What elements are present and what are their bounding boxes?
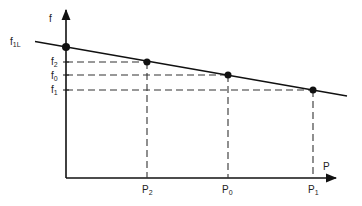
x-axis-label: P — [323, 161, 330, 172]
label-f1L: f1L — [10, 36, 21, 48]
f-vs-p-diagram: f P f1L f2 f0 f1 P2 P0 P1 — [0, 0, 362, 206]
label-p1: P1 — [308, 184, 319, 196]
point-p0 — [225, 72, 232, 79]
label-f1: f1 — [51, 84, 58, 96]
point-f1L — [62, 43, 70, 51]
y-axis-label: f — [49, 13, 52, 24]
characteristic-line — [35, 42, 347, 97]
point-p1 — [310, 87, 317, 94]
label-p0: P0 — [222, 184, 233, 196]
label-f2: f2 — [51, 56, 58, 68]
point-p2 — [144, 59, 151, 66]
label-p2: P2 — [142, 184, 153, 196]
label-f0: f0 — [51, 70, 58, 82]
